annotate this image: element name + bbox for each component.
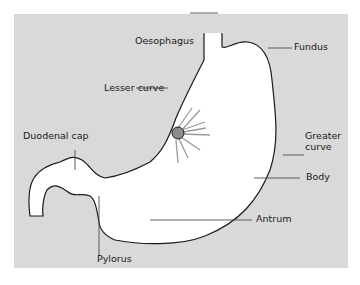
label-fundus: Fundus: [294, 41, 328, 52]
label-duodenal-cap: Duodenal cap: [23, 130, 89, 141]
label-oesophagus: Oesophagus: [135, 35, 194, 46]
label-greater-curve-2: curve: [305, 141, 332, 152]
label-pylorus: Pylorus: [97, 253, 132, 264]
label-antrum: Antrum: [256, 213, 291, 224]
ulcer-crater: [172, 127, 184, 139]
label-lesser-curve: Lesser curve: [104, 82, 164, 93]
label-body: Body: [306, 171, 330, 182]
label-greater-curve-1: Greater: [305, 130, 341, 141]
